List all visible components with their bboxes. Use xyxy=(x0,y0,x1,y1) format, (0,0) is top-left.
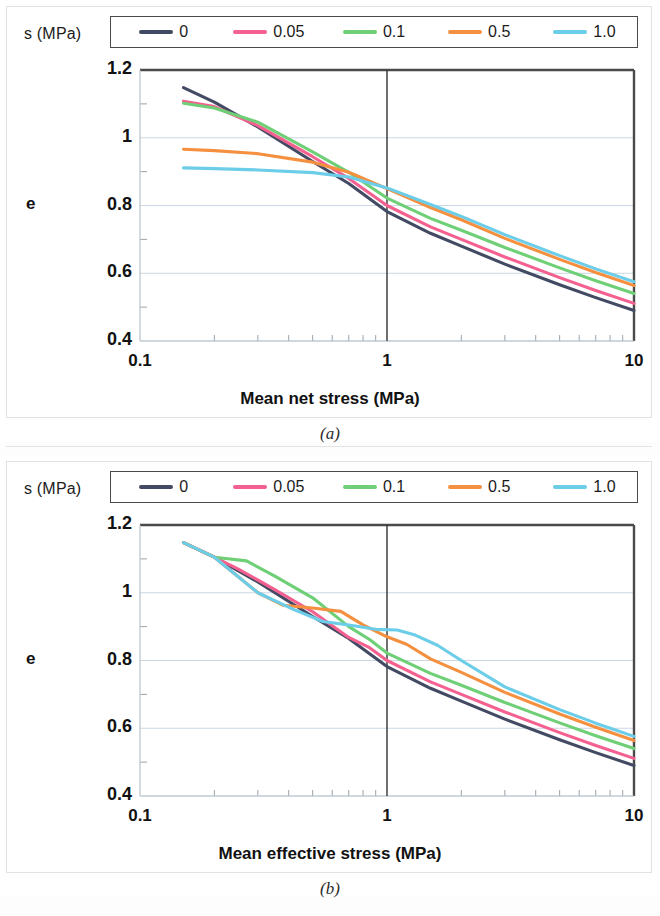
y-tick-label: 0.6 xyxy=(48,716,132,737)
y-axis-title: e xyxy=(26,649,35,669)
x-tick-label: 1 xyxy=(357,351,417,371)
x-axis-title: Mean net stress (MPa) xyxy=(0,389,660,409)
panel-caption-b: (b) xyxy=(0,879,660,899)
y-tick-label: 0.8 xyxy=(48,194,132,215)
y-tick-label: 0.4 xyxy=(48,784,132,805)
chart-svg xyxy=(0,455,660,815)
y-tick-label: 1.2 xyxy=(48,58,132,79)
chart-panel-b: s (MPa) 00.050.10.51.0 0.40.60.811.2e0.1… xyxy=(0,455,660,897)
x-tick-label: 10 xyxy=(604,351,660,371)
plot-area-a: 0.40.60.811.2e0.1110Mean net stress (MPa… xyxy=(0,0,660,360)
x-tick-label: 1 xyxy=(357,806,417,826)
x-tick-label: 10 xyxy=(604,806,660,826)
panel-divider xyxy=(6,446,652,447)
chart-panel-a: s (MPa) 00.050.10.51.0 0.40.60.811.2e0.1… xyxy=(0,0,660,442)
x-tick-label: 0.1 xyxy=(110,351,170,371)
y-tick-label: 0.8 xyxy=(48,649,132,670)
figure-page: s (MPa) 00.050.10.51.0 0.40.60.811.2e0.1… xyxy=(0,0,660,916)
y-tick-label: 1 xyxy=(48,126,132,147)
y-tick-label: 0.6 xyxy=(48,261,132,282)
plot-area-b: 0.40.60.811.2e0.1110Mean effective stres… xyxy=(0,455,660,815)
x-tick-label: 0.1 xyxy=(110,806,170,826)
y-axis-title: e xyxy=(26,194,35,214)
panel-caption-a: (a) xyxy=(0,424,660,444)
y-tick-label: 1.2 xyxy=(48,513,132,534)
x-axis-title: Mean effective stress (MPa) xyxy=(0,844,660,864)
y-tick-label: 1 xyxy=(48,581,132,602)
y-tick-label: 0.4 xyxy=(48,329,132,350)
chart-svg xyxy=(0,0,660,360)
